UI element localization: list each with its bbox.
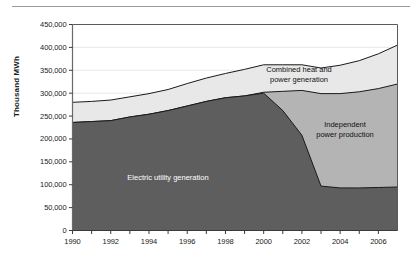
series-label-line: power generation bbox=[270, 75, 328, 84]
x-tick-label: 1996 bbox=[170, 237, 204, 246]
x-tick-label: 2000 bbox=[247, 237, 281, 246]
x-tick-label: 1998 bbox=[208, 237, 242, 246]
x-tick-label: 2004 bbox=[323, 237, 357, 246]
x-tick-label: 1992 bbox=[94, 237, 128, 246]
series-label-electric-utility-generation: Electric utility generation bbox=[98, 173, 238, 183]
series-label-line: Electric utility generation bbox=[127, 173, 208, 182]
y-tick-label: 250,000 bbox=[23, 112, 67, 121]
y-tick-label: 350,000 bbox=[23, 66, 67, 75]
series-label-line: power production bbox=[316, 130, 374, 139]
y-tick-label: 0 bbox=[23, 226, 67, 235]
x-tick-label: 2006 bbox=[361, 237, 395, 246]
x-tick-label: 2002 bbox=[285, 237, 319, 246]
series-label-line: Combined heat and bbox=[266, 65, 331, 74]
y-tick-label: 450,000 bbox=[23, 20, 67, 29]
series-label-line: Independent bbox=[324, 120, 366, 129]
y-tick-label: 200,000 bbox=[23, 134, 67, 143]
y-tick-label: 50,000 bbox=[23, 203, 67, 212]
chart-figure: Thousand MWh 050,000100,000150,000200,00… bbox=[0, 0, 418, 265]
series-label-combined-heat-and-power: Combined heat and power generation bbox=[245, 65, 353, 84]
y-tick-label: 100,000 bbox=[23, 180, 67, 189]
y-tick-label: 300,000 bbox=[23, 89, 67, 98]
y-tick-label: 400,000 bbox=[23, 43, 67, 52]
series-label-independent-power-production: Independent power production bbox=[297, 120, 393, 139]
x-tick-label: 1990 bbox=[56, 237, 90, 246]
y-tick-label: 150,000 bbox=[23, 157, 67, 166]
x-tick-label: 1994 bbox=[132, 237, 166, 246]
